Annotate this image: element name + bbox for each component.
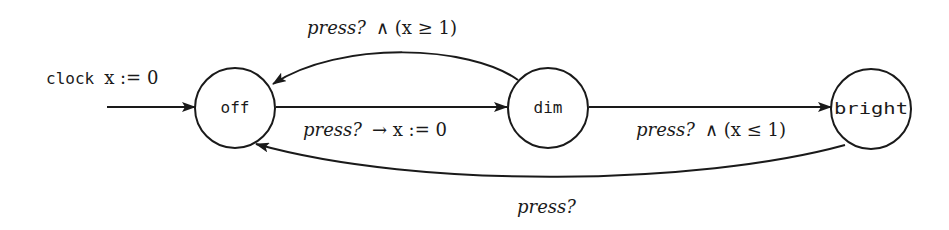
edge-dim-to-off — [273, 52, 518, 84]
initial-transition: clock x := 0 — [46, 67, 195, 107]
state-off-label: off — [221, 98, 250, 117]
guard: ∧ (x ≥ 1) — [376, 17, 457, 38]
state-off: off — [195, 68, 275, 148]
label-dim-to-off: press? ∧ (x ≥ 1) — [307, 17, 457, 38]
state-bright: bright — [831, 69, 911, 149]
guard: ∧ (x ≤ 1) — [705, 119, 786, 140]
clock-reset-expr: x := 0 — [104, 67, 158, 88]
label-dim-to-bright: press? ∧ (x ≤ 1) — [636, 119, 786, 140]
transition-bright-to-off: press? — [256, 144, 845, 217]
event-press: press? — [636, 119, 695, 140]
label-off-to-dim: press? → x := 0 — [303, 119, 447, 140]
initial-label: clock x := 0 — [46, 67, 158, 88]
transition-dim-to-off: press? ∧ (x ≥ 1) — [273, 17, 518, 84]
transition-dim-to-bright: press? ∧ (x ≤ 1) — [589, 107, 831, 140]
event-press: press? — [307, 17, 366, 38]
state-dim: dim — [508, 68, 588, 148]
event-press: press? — [303, 119, 362, 140]
transition-off-to-dim: press? → x := 0 — [276, 107, 507, 140]
event-press: press? — [517, 196, 576, 217]
action: → x := 0 — [372, 119, 447, 140]
clock-keyword: clock — [46, 69, 95, 88]
automaton-diagram: clock x := 0 press? ∧ (x ≥ 1) press? → x… — [0, 0, 949, 230]
state-dim-label: dim — [534, 98, 563, 117]
label-bright-to-off: press? — [517, 196, 576, 217]
state-bright-label: bright — [834, 99, 908, 118]
